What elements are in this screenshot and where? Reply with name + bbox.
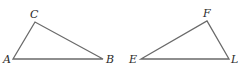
triangles-diagram: A C B E F L [0,0,238,65]
vertex-label-c: C [30,8,39,21]
triangle-efl-shape [141,21,229,59]
vertex-label-e: E [128,53,137,65]
triangle-efl: E F L [128,7,238,65]
vertex-label-b: B [105,53,114,65]
triangle-abc: A C B [2,8,114,65]
triangle-abc-shape [13,22,103,59]
vertex-label-a: A [2,53,11,65]
vertex-label-l: L [230,53,238,65]
vertex-label-f: F [202,7,211,20]
